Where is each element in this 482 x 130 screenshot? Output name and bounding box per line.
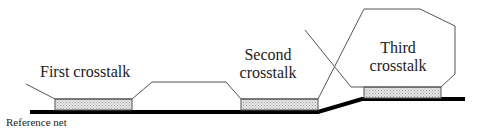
label-third-crosstalk-line1: Third [380,39,416,56]
victim-segment-third [364,87,441,98]
aggressor-path-first [26,82,318,99]
crosstalk-diagram: First crosstalk Second crosstalk Third c… [0,0,482,130]
victim-segment-first [55,99,132,110]
label-third-crosstalk-line2: crosstalk [370,57,427,74]
label-reference-net: Reference net [6,116,67,128]
label-first-crosstalk: First crosstalk [40,63,130,80]
label-second-crosstalk-line2: crosstalk [240,64,297,81]
label-second-crosstalk-line1: Second [244,46,291,63]
victim-segment-second [241,99,318,110]
